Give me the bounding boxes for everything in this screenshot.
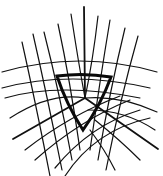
grid-curve: [71, 14, 85, 98]
grid-curve: [2, 79, 150, 88]
curve-family: [2, 14, 157, 176]
radial-axis: [84, 7, 85, 98]
diagram-canvas: [0, 0, 163, 176]
radial-axis: [85, 98, 158, 149]
grid-curve: [85, 16, 98, 98]
